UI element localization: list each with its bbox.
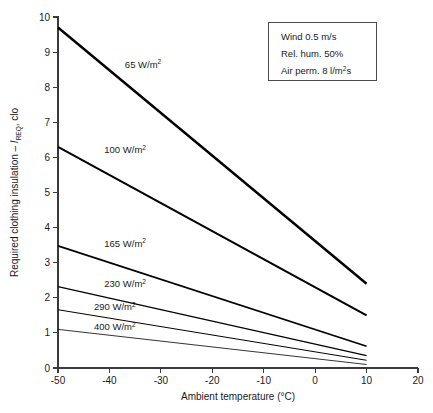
x-tick-label: -50 — [51, 375, 66, 386]
x-tick-label: 0 — [312, 375, 318, 386]
chart-page: 012345678910-50-40-30-20-1001020Ambient … — [0, 0, 433, 413]
line-chart: 012345678910-50-40-30-20-1001020Ambient … — [0, 0, 433, 413]
legend-line-0: Wind 0.5 m/s — [281, 31, 337, 42]
plot-area: 012345678910-50-40-30-20-1001020Ambient … — [9, 12, 424, 403]
x-tick-label: -20 — [205, 375, 220, 386]
series-label-290: 290 W/m2 — [94, 301, 136, 313]
series-label-165: 165 W/m2 — [104, 237, 146, 249]
y-tick-label: 10 — [39, 12, 51, 23]
series-line-100 — [58, 147, 367, 315]
series-label-100: 100 W/m2 — [104, 144, 146, 156]
y-tick-label: 6 — [44, 152, 50, 163]
series-label-65: 65 W/m2 — [125, 58, 162, 70]
y-tick-label: 4 — [44, 222, 50, 233]
y-tick-label: 9 — [44, 47, 50, 58]
y-tick-label: 1 — [44, 327, 50, 338]
x-tick-label: -30 — [154, 375, 169, 386]
x-tick-label: -40 — [102, 375, 117, 386]
y-tick-label: 5 — [44, 187, 50, 198]
series-label-230: 230 W/m2 — [104, 278, 146, 290]
y-tick-label: 0 — [44, 363, 50, 374]
x-tick-label: 20 — [412, 375, 424, 386]
y-tick-label: 7 — [44, 117, 50, 128]
x-axis-title: Ambient temperature (°C) — [181, 391, 295, 402]
series-label-400: 400 W/m2 — [94, 321, 136, 333]
legend-line-2: Air perm. 8 l/m2s — [281, 65, 351, 77]
y-tick-label: 2 — [44, 292, 50, 303]
legend-line-1: Rel. hum. 50% — [281, 48, 344, 59]
y-tick-label: 8 — [44, 82, 50, 93]
y-axis-title: Required clothing insulation – IREQ, clo — [9, 107, 23, 277]
y-tick-label: 3 — [44, 257, 50, 268]
x-tick-label: 10 — [361, 375, 373, 386]
x-tick-label: -10 — [256, 375, 271, 386]
